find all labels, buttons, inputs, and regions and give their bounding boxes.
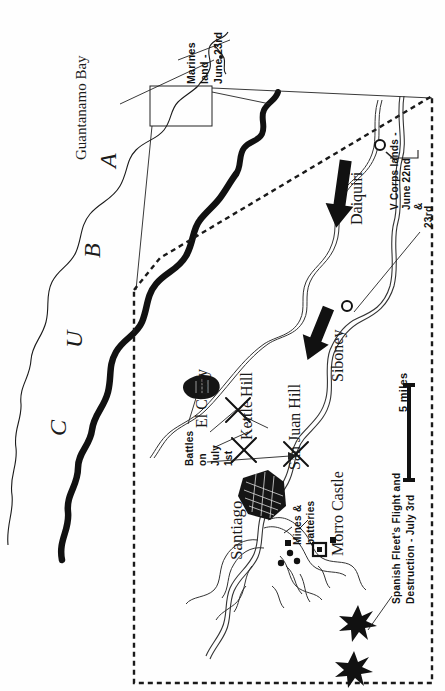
v-corps-line-1: V Corps lands -: [390, 132, 400, 210]
fleet-line-1: Spanish Fleet's Flight and: [392, 473, 402, 604]
label-santiago: Santiago: [228, 501, 245, 561]
country-label-u: U: [62, 331, 86, 348]
battles-line-1: Battles: [185, 431, 195, 466]
mines-line-2: batteries: [306, 501, 316, 545]
inset-connector-aux: [212, 92, 270, 104]
fleet-wreck-symbols: [335, 605, 377, 688]
leader-line-fleet: [368, 596, 392, 630]
battles-line-4: 1st: [224, 451, 234, 466]
scale-label: 5 miles: [398, 373, 409, 412]
label-morro-castle: Morro Castle: [330, 471, 346, 556]
v-corps-line-2: June 22nd: [402, 158, 412, 210]
label-siboney: Siboney: [330, 330, 346, 382]
label-el-caney: El Caney: [194, 369, 210, 428]
label-daiquiri: Daiquiri: [349, 172, 365, 225]
label-guantanamo-bay: Guantanamo Bay: [74, 55, 89, 160]
marines-note-line-2: land -: [199, 54, 210, 84]
historical-map: A B U C Guantanamo Bay Marines land - Ju…: [0, 0, 445, 691]
leader-line-v-corps-siboney: [354, 232, 420, 312]
country-label-c: C: [46, 420, 70, 436]
country-label-b: B: [80, 243, 104, 258]
v-corps-line-4: 23rd: [424, 206, 434, 228]
inset-connector-top: [212, 88, 432, 98]
fleet-line-2: Destruction - July 3rd: [406, 495, 416, 604]
battles-line-3: July: [211, 445, 221, 466]
cuba-overview-outline: [8, 32, 278, 560]
country-label-a: A: [96, 153, 120, 168]
mines-line-1: Mines &: [293, 505, 303, 545]
label-kettle-hill: Kettle Hill: [239, 372, 255, 440]
battles-line-2: on: [198, 453, 208, 466]
label-san-juan-hill: San Juan Hill: [287, 384, 303, 470]
marines-note-line-1: Marines: [186, 42, 197, 84]
marines-note-line-3: June 23rd: [213, 32, 224, 84]
